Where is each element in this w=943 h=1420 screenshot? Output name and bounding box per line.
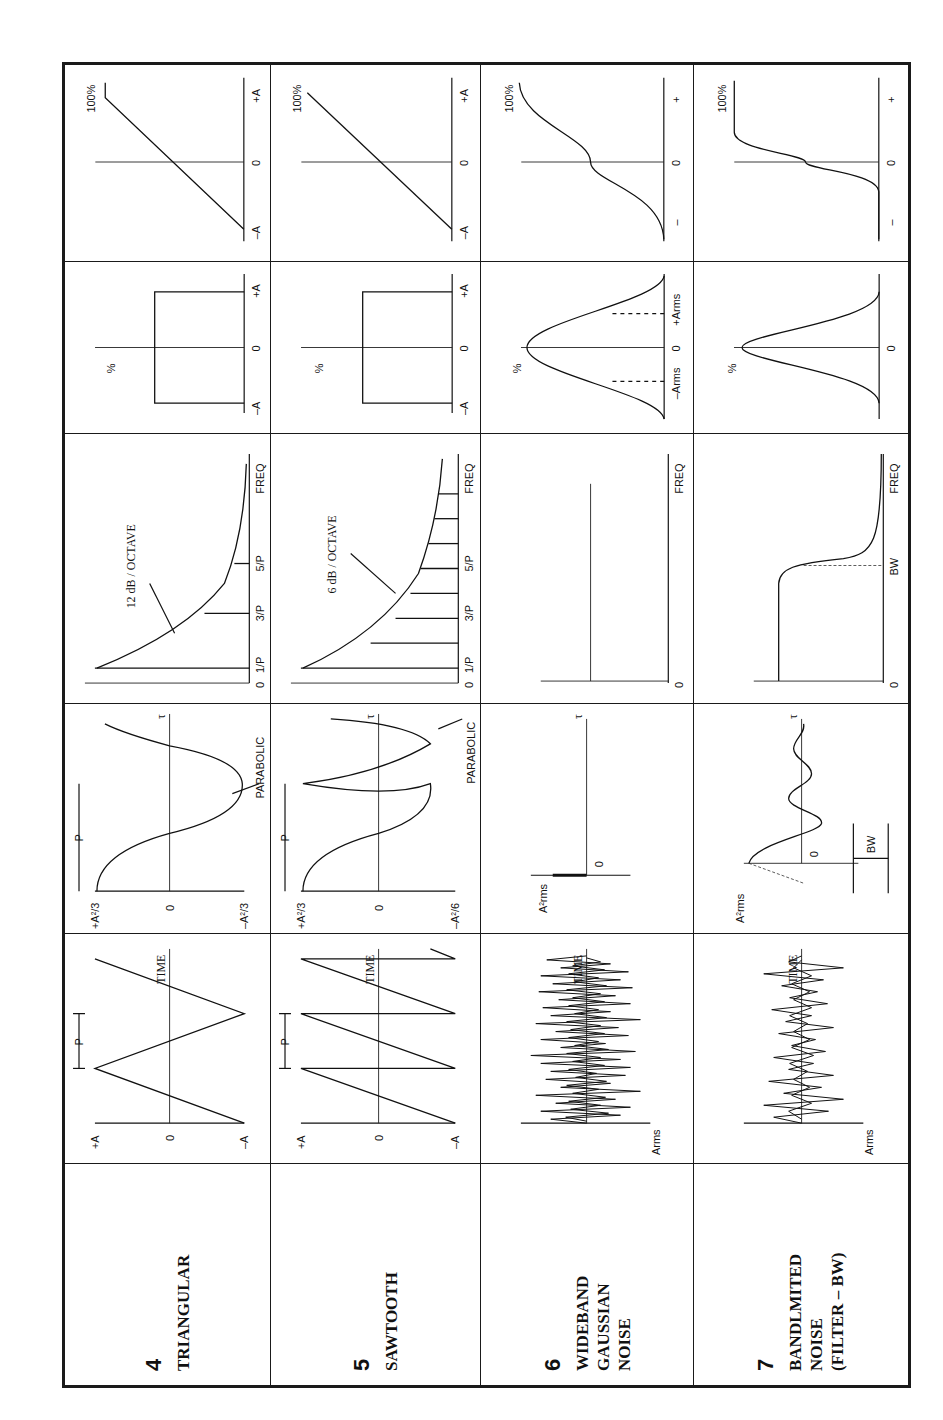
row-number: 6 <box>540 1164 566 1371</box>
wideband-noise-density-plot: % –Arms 0 +Arms <box>481 262 692 433</box>
signal-characteristics-table: 4 TRIANGULAR +A 0 –A P TIME <box>62 62 911 1388</box>
table-row-wideband-noise: 6 WIDEBAND GAUSSIAN NOISE Arms TIME A²rm… <box>481 64 693 1387</box>
label-plus-a: +A <box>250 88 262 102</box>
rotated-page-content: 4 TRIANGULAR +A 0 –A P TIME <box>62 65 905 1388</box>
signal-name-cell: 4 TRIANGULAR <box>64 1164 271 1387</box>
label-plus: + <box>670 96 682 102</box>
period-label: P <box>279 1038 291 1045</box>
label-plus-arms: +Arms <box>671 293 683 325</box>
freq-label-0: 0 <box>463 682 475 688</box>
label-minus-a: –A <box>250 401 262 415</box>
label-zero: 0 <box>250 160 262 166</box>
autocorrelation-plot: A²rms 0 τ <box>481 704 693 934</box>
label-minus-a: –A <box>250 225 262 239</box>
sawtooth-cdf-plot: 100% –A 0 +A <box>271 65 480 261</box>
signal-name: TRIANGULAR <box>173 1164 194 1371</box>
label-minus-a: –A <box>238 1135 250 1149</box>
label-plus-a: +A <box>250 283 262 297</box>
sawtooth-spectrum-plot: 0 1/P 3/P 5/P FREQ 6 dB / OCTAVE <box>271 434 480 703</box>
a2rms-label: A²rms <box>734 893 746 923</box>
spectrum-plot: 0 1/P 3/P 5/P FREQ 6 dB / OCTAVE <box>271 434 481 704</box>
label-minus-a2-over-6: –A²/6 <box>449 903 461 929</box>
amplitude-density-plot: % –Arms 0 +Arms <box>481 262 693 434</box>
time-history-plot: Arms TIME <box>693 934 909 1164</box>
label-minus-a: –A <box>458 401 470 415</box>
time-history-plot: +A 0 –A P TIME <box>271 934 481 1164</box>
signal-name: SAWTOOTH <box>381 1164 402 1371</box>
clipped-page-header <box>20 0 920 3</box>
cumulative-distribution-plot: 100% –A 0 +A <box>64 64 271 262</box>
bandlimited-noise-density-plot: % 0 <box>694 262 908 433</box>
time-axis-label: TIME <box>571 955 585 984</box>
label-plus-a: +A <box>295 1135 307 1149</box>
label-plus: + <box>884 96 896 102</box>
label-minus-a: –A <box>458 225 470 239</box>
freq-axis-label: FREQ <box>254 463 266 493</box>
label-zero: 0 <box>164 905 176 911</box>
label-plus-a: +A <box>89 1135 101 1149</box>
parabolic-annotation: PARABOLIC <box>254 737 266 799</box>
triangular-autocorr-plot: P +A²/3 0 –A²/3 PARABOLIC τ <box>65 704 270 933</box>
time-axis-label: TIME <box>363 955 377 984</box>
time-axis-label: TIME <box>154 955 168 984</box>
label-a2-over-3: +A²/3 <box>295 903 307 929</box>
cumulative-distribution-plot: 100% – 0 + <box>481 64 693 262</box>
row-number: 5 <box>349 1164 375 1371</box>
triangular-cdf-plot: 100% –A 0 +A <box>65 65 270 261</box>
row-number: 4 <box>141 1164 167 1371</box>
wideband-noise-cdf-plot: 100% – 0 + <box>481 65 692 261</box>
spectrum-plot: 0 FREQ <box>481 434 693 704</box>
label-zero: 0 <box>458 160 470 166</box>
percent-label: % <box>726 363 738 373</box>
time-axis-label: TIME <box>785 955 799 984</box>
arms-label: Arms <box>863 1129 875 1155</box>
freq-label-3p: 3/P <box>463 605 475 621</box>
freq-label-1p: 1/P <box>463 657 475 673</box>
hundred-percent-label: 100% <box>85 84 97 112</box>
time-history-plot: Arms TIME <box>481 934 693 1164</box>
freq-label-5p: 5/P <box>463 555 475 571</box>
label-zero: 0 <box>373 1135 385 1141</box>
label-minus-a: –A <box>449 1135 461 1149</box>
autocorrelation-plot: P +A²/3 0 –A²/3 PARABOLIC τ <box>64 704 271 934</box>
bw-label: BW <box>888 557 900 575</box>
tau-axis-label: τ <box>363 714 377 719</box>
sawtooth-time-plot: +A 0 –A P TIME <box>271 934 480 1163</box>
amplitude-density-plot: % –A 0 +A <box>271 262 481 434</box>
tau-axis-label: τ <box>785 714 799 719</box>
table-row-triangular: 4 TRIANGULAR +A 0 –A P TIME <box>64 64 271 1387</box>
triangular-spectrum-plot: 0 1/P 3/P 5/P FREQ 12 dB / OCTAVE <box>65 434 270 703</box>
table-row-bandlimited-noise: 7 BANDLMITED NOISE (FILTER – BW) Arms TI… <box>693 64 909 1387</box>
wideband-noise-autocorr-plot: A²rms 0 τ <box>481 704 692 933</box>
label-minus-arms: –Arms <box>671 367 683 399</box>
parabolic-annotation: PARABOLIC <box>465 722 477 784</box>
row-number: 7 <box>753 1164 779 1371</box>
bandlimited-noise-spectrum-plot: 0 BW FREQ <box>694 434 908 703</box>
triangular-density-plot: % –A 0 +A <box>65 262 270 433</box>
label-zero: 0 <box>884 160 896 166</box>
freq-label-5p: 5/P <box>254 555 266 571</box>
bandlimited-noise-time-plot: Arms TIME <box>694 934 908 1163</box>
label-minus-a2-over-3: –A²/3 <box>238 903 250 929</box>
slope-annotation: 12 dB / OCTAVE <box>124 524 138 608</box>
label-zero: 0 <box>670 160 682 166</box>
percent-label: % <box>313 363 325 373</box>
period-label: P <box>279 834 291 841</box>
period-label: P <box>73 1038 85 1045</box>
signal-name: WIDEBAND GAUSSIAN NOISE <box>572 1164 635 1371</box>
arms-label: Arms <box>651 1129 663 1155</box>
bandlimited-noise-autocorr-plot: BW A²rms 0 τ <box>694 704 908 933</box>
amplitude-density-plot: % –A 0 +A <box>64 262 271 434</box>
label-a2-over-3: +A²/3 <box>89 903 101 929</box>
label-minus: – <box>670 218 682 225</box>
table-row-sawtooth: 5 SAWTOOTH +A 0 –A P TIME <box>271 64 481 1387</box>
signal-name: BANDLMITED NOISE (FILTER – BW) <box>785 1164 848 1371</box>
freq-axis-label: FREQ <box>888 463 900 493</box>
freq-axis-label: FREQ <box>674 463 686 493</box>
bandlimited-noise-cdf-plot: 100% – 0 + <box>694 65 908 261</box>
label-zero: 0 <box>671 345 683 351</box>
label-zero: 0 <box>373 905 385 911</box>
freq-label-1p: 1/P <box>254 657 266 673</box>
label-plus-a: +A <box>458 283 470 297</box>
label-minus: – <box>884 218 896 225</box>
